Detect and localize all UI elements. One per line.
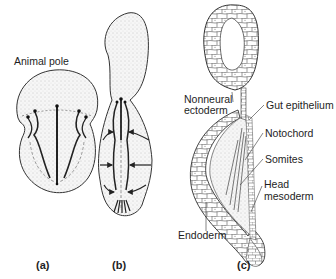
- caption-panel-a: (a): [36, 259, 49, 271]
- caption-panel-c: (c): [237, 259, 250, 271]
- caption-panel-b: (b): [112, 259, 126, 271]
- leader-gut-epithelium: [249, 105, 264, 120]
- label-head-mesoderm-line2: mesoderm: [264, 191, 314, 202]
- panel-a-embryo: [17, 70, 98, 193]
- label-endoderm: Endoderm: [178, 230, 226, 241]
- label-head-mesoderm-line1: Head: [264, 179, 289, 190]
- label-somites: Somites: [265, 154, 303, 165]
- label-gut-epithelium: Gut epithelium: [266, 100, 334, 111]
- label-animal-pole: Animal pole: [14, 56, 69, 67]
- label-nonneural-ectoderm-line2: ectoderm: [184, 105, 228, 116]
- diagram-canvas: [0, 0, 336, 279]
- label-notochord: Notochord: [265, 128, 313, 139]
- panel-b-embryo: [99, 13, 153, 216]
- panel-c-section: [190, 5, 265, 266]
